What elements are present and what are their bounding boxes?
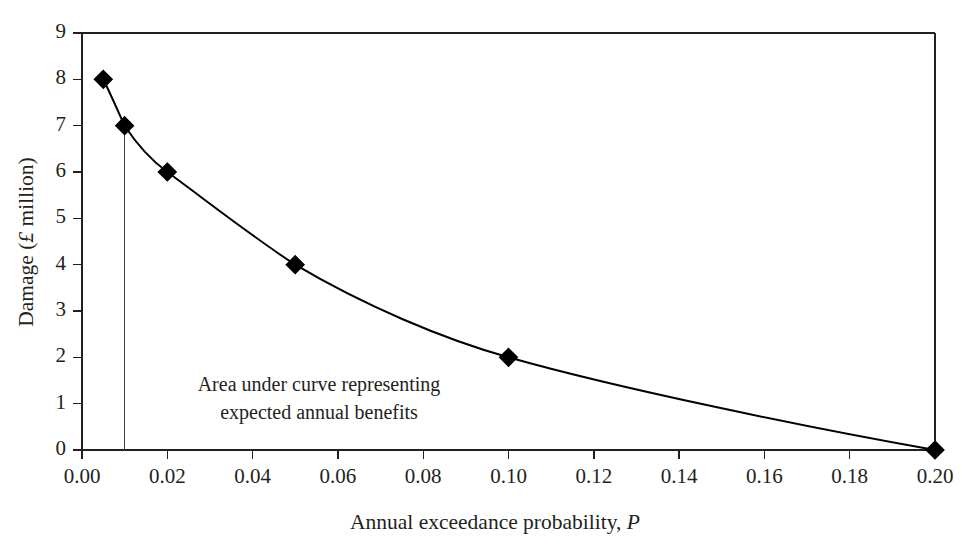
- y-tick-label-6: 6: [56, 158, 67, 182]
- x-axis-title-symbol: P: [626, 510, 640, 534]
- x-tick-label-6: 0.12: [575, 464, 612, 488]
- x-axis-title: Annual exceedance probability, P: [350, 510, 640, 534]
- x-tick-label-10: 0.20: [917, 464, 954, 488]
- x-tick-label-4: 0.08: [405, 464, 442, 488]
- y-axis-title-currency-symbol: £: [14, 232, 38, 243]
- y-tick-label-8: 8: [56, 65, 67, 89]
- y-tick-label-4: 4: [56, 251, 67, 275]
- x-tick-label-0: 0.00: [64, 464, 101, 488]
- chart-figure: 0 1 2 3 4 5 6 7 8 9 0.00: [0, 0, 972, 551]
- damage-exceedance-probability-chart: 0 1 2 3 4 5 6 7 8 9 0.00: [0, 0, 972, 551]
- x-tick-label-1: 0.02: [149, 464, 186, 488]
- x-tick-label-5: 0.10: [490, 464, 527, 488]
- y-tick-label-1: 1: [56, 390, 67, 414]
- x-tick-label-3: 0.06: [320, 464, 357, 488]
- x-tick-label-9: 0.18: [831, 464, 868, 488]
- x-tick-label-2: 0.04: [234, 464, 271, 488]
- y-axis-title-post: million): [14, 157, 38, 232]
- area-annotation-line-1: Area under curve representing: [198, 373, 441, 396]
- y-tick-label-9: 9: [56, 19, 67, 43]
- x-axis-title-main: Annual exceedance probability,: [350, 510, 627, 534]
- x-tick-label-8: 0.16: [746, 464, 783, 488]
- x-tick-label-7: 0.14: [661, 464, 698, 488]
- y-tick-label-5: 5: [56, 204, 67, 228]
- y-tick-label-3: 3: [56, 297, 67, 321]
- area-annotation-line-2: expected annual benefits: [220, 401, 418, 424]
- y-tick-label-0: 0: [56, 436, 67, 460]
- y-axis-title-pre: Damage (: [14, 243, 38, 327]
- chart-background: [0, 0, 972, 551]
- y-axis-title: Damage (£ million): [14, 157, 38, 327]
- y-tick-label-2: 2: [56, 343, 67, 367]
- y-tick-label-7: 7: [56, 112, 67, 136]
